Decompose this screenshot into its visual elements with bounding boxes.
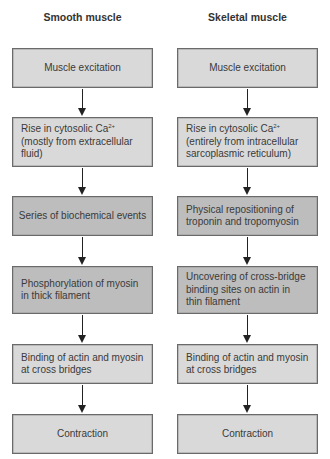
arrow-down-icon: [243, 315, 252, 343]
step-text: Series of biochemical events: [19, 210, 146, 223]
skeletal-step-muscle-excitation: Muscle excitation: [177, 48, 318, 88]
arrow-down-icon: [78, 237, 87, 265]
skeletal-step-rise-calcium: Rise in cytosolic Ca2+ (entirely from in…: [177, 117, 318, 167]
step-text: Contraction: [57, 428, 108, 441]
smooth-step-rise-calcium: Rise in cytosolic Ca2+ (mostly from extr…: [12, 117, 153, 167]
step-text: Binding of actin and myosin at cross bri…: [21, 352, 143, 377]
arrow-down-icon: [243, 385, 252, 413]
arrow-down-icon: [78, 89, 87, 116]
smooth-step-muscle-excitation: Muscle excitation: [12, 48, 153, 88]
smooth-step-contraction: Contraction: [12, 414, 153, 454]
step-text: Binding of actin and myosin at cross bri…: [186, 352, 308, 377]
smooth-step-phosphorylation: Phosphorylation of myosin in thick filam…: [12, 266, 153, 314]
skeletal-step-contraction: Contraction: [177, 414, 318, 454]
arrow-down-icon: [78, 385, 87, 413]
step-text: Phosphorylation of myosin in thick filam…: [21, 278, 138, 303]
smooth-step-biochemical-events: Series of biochemical events: [12, 196, 153, 236]
skeletal-muscle-header: Skeletal muscle: [177, 11, 318, 23]
step-text: Rise in cytosolic Ca2+ (mostly from extr…: [21, 123, 133, 161]
smooth-muscle-header: Smooth muscle: [12, 11, 153, 23]
arrow-down-icon: [78, 315, 87, 343]
step-text: Contraction: [222, 428, 273, 441]
step-text: Physical repositioning of troponin and t…: [186, 204, 299, 229]
arrow-down-icon: [243, 237, 252, 265]
step-text: Muscle excitation: [44, 62, 121, 75]
step-text: Muscle excitation: [209, 62, 286, 75]
step-text: Rise in cytosolic Ca2+ (entirely from in…: [186, 123, 298, 161]
smooth-step-actin-myosin-binding: Binding of actin and myosin at cross bri…: [12, 344, 153, 384]
skeletal-step-uncovering-binding-sites: Uncovering of cross-bridge binding sites…: [177, 266, 318, 314]
arrow-down-icon: [243, 168, 252, 195]
arrow-down-icon: [78, 168, 87, 195]
skeletal-step-actin-myosin-binding: Binding of actin and myosin at cross bri…: [177, 344, 318, 384]
arrow-down-icon: [243, 89, 252, 116]
step-text: Uncovering of cross-bridge binding sites…: [186, 271, 306, 309]
skeletal-step-troponin-repositioning: Physical repositioning of troponin and t…: [177, 196, 318, 236]
